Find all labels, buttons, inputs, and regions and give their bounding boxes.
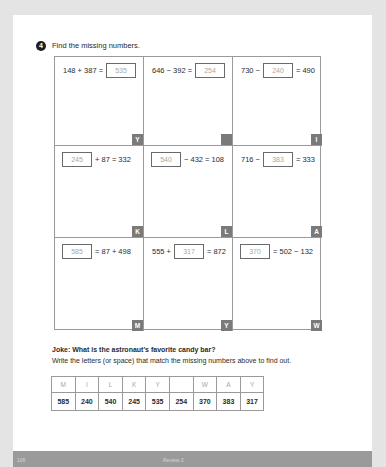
equation-right: = 333: [294, 155, 317, 164]
number-cell: 240: [75, 393, 99, 411]
equation-left: 148 + 387 =: [61, 66, 105, 75]
letter-cell[interactable]: [169, 377, 193, 393]
problem-cell: 646 − 392 =254: [144, 57, 233, 146]
equation-left: 646 − 392 =: [150, 66, 194, 75]
equation-left: 555 +: [150, 247, 173, 256]
letters-row: M I L K Y W A Y: [52, 377, 264, 393]
equation-right: + 87 = 332: [93, 155, 133, 164]
number-cell: 370: [193, 393, 217, 411]
problem-cell: 370= 502 − 132 W: [233, 238, 322, 331]
problem-cell: 148 + 387 =535 Y: [55, 57, 144, 146]
number-cell: 254: [169, 393, 193, 411]
number-cell: 383: [217, 393, 241, 411]
answer-box[interactable]: 370: [240, 244, 270, 259]
page-number: 106: [17, 457, 25, 463]
letter-cell[interactable]: A: [217, 377, 241, 393]
answer-box[interactable]: 383: [263, 152, 293, 167]
answer-box[interactable]: 535: [106, 63, 136, 78]
equation-right: − 432 = 108: [182, 155, 226, 164]
equation-right: = 87 + 498: [93, 247, 133, 256]
letter-cell[interactable]: M: [52, 377, 76, 393]
answer-box[interactable]: 540: [151, 152, 181, 167]
number-cell: 540: [99, 393, 123, 411]
equation-left: 716 −: [239, 155, 262, 164]
joke-instruction: Write the letters (or space) that match …: [52, 357, 291, 364]
section-label: Review 3: [163, 457, 184, 463]
problem-cell: 540− 432 = 108 L: [144, 146, 233, 238]
number-cell: 317: [240, 393, 264, 411]
question-prompt: Find the missing numbers.: [52, 41, 140, 50]
number-cell: 245: [122, 393, 146, 411]
letter-tag: Y: [221, 320, 232, 331]
question-number-badge: 4: [36, 41, 46, 51]
equation-right: = 502 − 132: [271, 247, 315, 256]
equation-left: 730 −: [239, 66, 262, 75]
problem-cell: 245+ 87 = 332 K: [55, 146, 144, 238]
answer-box[interactable]: 245: [62, 152, 92, 167]
letter-tag: A: [311, 226, 322, 237]
problem-grid: 148 + 387 =535 Y 646 − 392 =254 730 −240…: [54, 56, 321, 330]
problem-cell: 585= 87 + 498 M: [55, 238, 144, 331]
letter-cell[interactable]: K: [122, 377, 146, 393]
answer-box[interactable]: 254: [195, 63, 225, 78]
equation-right: = 490: [294, 66, 317, 75]
letter-tag: Y: [132, 134, 143, 145]
letter-tag: [221, 134, 232, 145]
number-cell: 535: [146, 393, 170, 411]
answer-box[interactable]: 240: [263, 63, 293, 78]
letter-cell[interactable]: Y: [146, 377, 170, 393]
page-footer: 106 Review 3: [13, 451, 372, 467]
letter-tag: W: [311, 320, 322, 331]
problem-cell: 555 +317= 872 Y: [144, 238, 233, 331]
problem-cell: 730 −240= 490 I: [233, 57, 322, 146]
letter-cell[interactable]: I: [75, 377, 99, 393]
number-cell: 585: [52, 393, 76, 411]
numbers-row: 585 240 540 245 535 254 370 383 317: [52, 393, 264, 411]
letter-cell[interactable]: L: [99, 377, 123, 393]
letter-tag: L: [221, 226, 232, 237]
equation-right: = 872: [205, 247, 228, 256]
answer-table: M I L K Y W A Y 585 240 540 245 535 254 …: [51, 376, 264, 411]
letter-tag: M: [132, 320, 143, 331]
answer-box[interactable]: 585: [62, 244, 92, 259]
question-header: 4 Find the missing numbers.: [36, 40, 140, 51]
joke-title: Joke: What is the astronaut's favorite c…: [52, 346, 215, 353]
letter-cell[interactable]: Y: [240, 377, 264, 393]
problem-cell: 716 −383= 333 A: [233, 146, 322, 238]
letter-cell[interactable]: W: [193, 377, 217, 393]
letter-tag: I: [311, 134, 322, 145]
answer-box[interactable]: 317: [174, 244, 204, 259]
letter-tag: K: [132, 226, 143, 237]
